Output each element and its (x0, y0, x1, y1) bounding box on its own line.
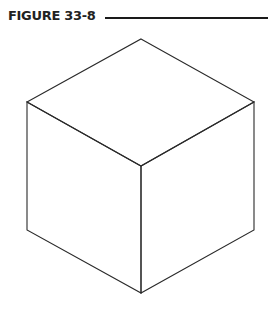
cube-top-face (27, 39, 254, 166)
cube-right-face (141, 102, 254, 293)
isometric-cube (0, 0, 275, 321)
cube-left-face (27, 102, 141, 293)
